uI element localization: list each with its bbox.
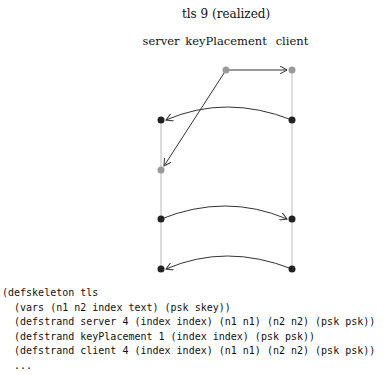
code-line: ...	[2, 360, 32, 371]
code-line: (vars (n1 n2 index text) (psk skey))	[2, 302, 231, 313]
node	[223, 67, 230, 74]
code-line: (defskeleton tls	[2, 287, 98, 298]
node	[289, 216, 296, 223]
node	[158, 266, 165, 273]
message-arrow	[166, 107, 292, 120]
strand-space-diagram	[0, 0, 392, 285]
message-arrow	[164, 70, 226, 166]
node	[289, 266, 296, 273]
node	[158, 167, 165, 174]
message-arrow	[166, 256, 292, 269]
node	[158, 117, 165, 124]
node	[289, 67, 296, 74]
skeleton-code: (defskeleton tls (vars (n1 n2 index text…	[2, 286, 375, 373]
message-arrow	[161, 206, 287, 219]
node	[289, 117, 296, 124]
code-line: (defstrand server 4 (index index) (n1 n1…	[2, 316, 375, 327]
code-line: (defstrand client 4 (index index) (n1 n1…	[2, 345, 375, 356]
code-line: (defstrand keyPlacement 1 (index index) …	[2, 331, 315, 342]
node	[158, 216, 165, 223]
